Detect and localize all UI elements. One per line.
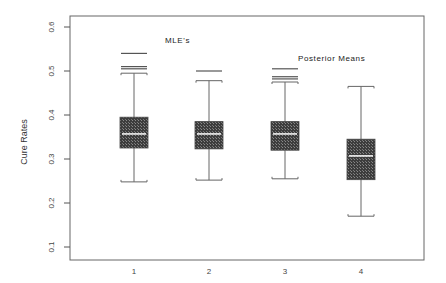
y-axis: 0.10.20.30.40.50.6	[47, 21, 70, 253]
boxplot-chart: 0.10.20.30.40.50.6 Cure Rates 1234 MLE's…	[0, 0, 446, 283]
box-iqr	[347, 139, 375, 179]
y-tick-label: 0.4	[47, 109, 56, 121]
y-tick-label: 0.5	[47, 65, 56, 77]
y-tick-label: 0.3	[47, 153, 56, 165]
box-iqr	[271, 122, 299, 151]
annotation-mles: MLE's	[165, 36, 190, 45]
x-axis: 1234	[132, 267, 364, 276]
annotation-posterior-means: Posterior Means	[298, 54, 365, 63]
box-3	[271, 69, 299, 179]
x-tick-label: 3	[283, 267, 288, 276]
y-tick-label: 0.2	[47, 197, 56, 209]
x-tick-label: 4	[359, 267, 364, 276]
y-tick-label: 0.6	[47, 21, 56, 33]
annotations: MLE'sPosterior Means	[165, 36, 365, 63]
boxes	[120, 53, 375, 216]
box-iqr	[120, 117, 148, 148]
box-1	[120, 53, 148, 181]
box-2	[195, 71, 223, 180]
x-tick-label: 2	[207, 267, 212, 276]
box-4	[347, 86, 375, 216]
y-axis-title: Cure Rates	[19, 119, 29, 165]
y-tick-label: 0.1	[47, 241, 56, 253]
box-iqr	[195, 122, 223, 149]
x-tick-label: 1	[132, 267, 137, 276]
